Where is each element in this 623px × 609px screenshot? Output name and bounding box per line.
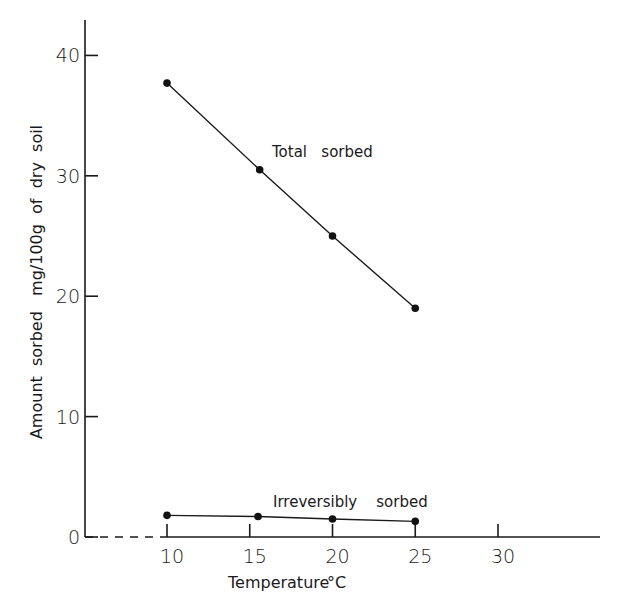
y-tick-label: 20 xyxy=(56,285,80,307)
data-point xyxy=(411,304,419,312)
data-point xyxy=(411,518,419,526)
series-line xyxy=(167,515,415,521)
x-tick-label: 15 xyxy=(243,545,267,567)
x-axis-label: Temperature xyxy=(227,573,329,592)
chart-canvas: 010203040 1015202530 Amount sorbed mg/10… xyxy=(0,0,623,609)
x-tick-label: 25 xyxy=(408,545,432,567)
x-tick-label: 10 xyxy=(160,545,184,567)
y-tick-label: 0 xyxy=(68,526,80,548)
data-point xyxy=(256,166,264,174)
x-tick-label: 20 xyxy=(325,545,349,567)
y-tick-label: 30 xyxy=(56,165,80,187)
y-tick-label: 10 xyxy=(56,406,80,428)
y-ticks: 010203040 xyxy=(56,44,98,548)
series-total-sorbed xyxy=(163,79,419,312)
series-label-total: Total sorbed xyxy=(271,143,373,161)
y-axis-label: Amount sorbed mg/100g of dry soil xyxy=(27,125,46,439)
axes xyxy=(85,20,600,537)
data-point xyxy=(329,232,337,240)
y-tick-label: 40 xyxy=(56,44,80,66)
data-point xyxy=(163,79,171,87)
data-point xyxy=(163,512,171,520)
data-point xyxy=(254,513,262,521)
x-axis-unit: °C xyxy=(327,573,346,592)
series-line xyxy=(167,83,415,308)
series-label-irreversible: Irreversibly sorbed xyxy=(273,493,428,511)
x-ticks: 1015202530 xyxy=(160,524,515,567)
data-point xyxy=(329,515,337,523)
x-tick-label: 30 xyxy=(491,545,515,567)
series-irreversibly-sorbed xyxy=(163,512,419,526)
